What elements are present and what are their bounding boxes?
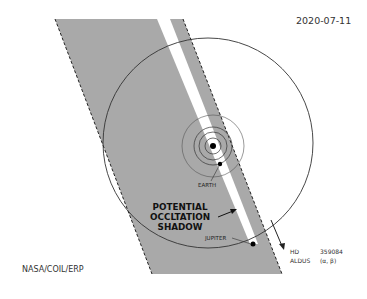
star-info: HD359084 ALDUS(α, β) <box>290 247 343 265</box>
shadow-label-line1: POTENTIAL <box>150 202 210 212</box>
star-hd-key: HD <box>290 247 320 256</box>
star-aldus-value: (α, β) <box>320 256 336 265</box>
star-hd-value: 359084 <box>320 247 343 256</box>
star-arrow <box>271 220 282 246</box>
star-aldus-key: ALDUS <box>290 256 320 265</box>
jupiter-dot <box>251 242 256 247</box>
sun-dot <box>210 143 216 149</box>
jupiter-label: JUPITER <box>205 235 226 241</box>
earth-label: EARTH <box>198 182 216 188</box>
date-label: 2020-07-11 <box>296 15 351 26</box>
shadow-label: POTENTIAL OCCLTATION SHADOW <box>150 202 210 232</box>
shadow-label-line2: OCCLTATION <box>150 212 210 222</box>
star-arrow-head <box>279 243 285 250</box>
shadow-label-line3: SHADOW <box>150 222 210 232</box>
credit-label: NASA/COIL/ERP <box>22 265 84 274</box>
earth-dot <box>218 162 222 166</box>
